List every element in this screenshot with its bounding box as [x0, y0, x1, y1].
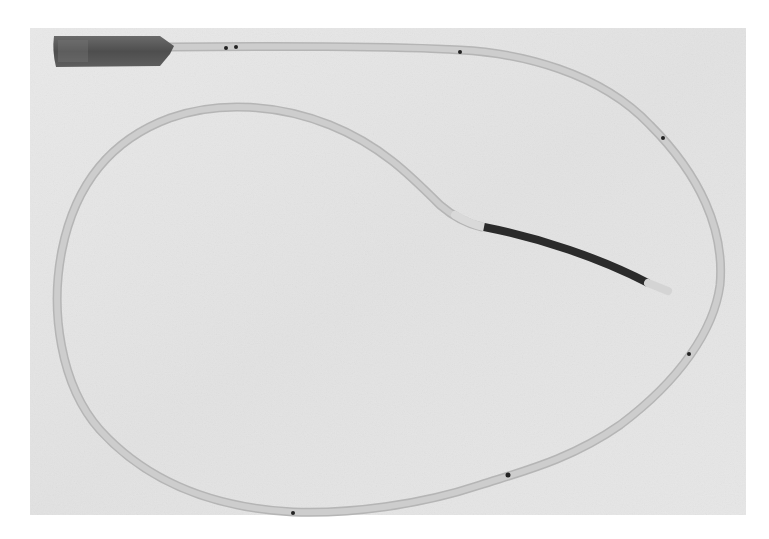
marker-dot	[224, 46, 228, 50]
marker-dot	[234, 45, 238, 49]
marker-dot	[687, 352, 691, 356]
marker-dot	[661, 136, 665, 140]
marker-dot	[291, 511, 295, 515]
catheter-photograph	[0, 0, 769, 539]
marker-dot	[458, 50, 462, 54]
marker-dot	[506, 473, 511, 478]
photo-grain	[30, 28, 746, 515]
connector-hub-highlight	[58, 40, 88, 62]
